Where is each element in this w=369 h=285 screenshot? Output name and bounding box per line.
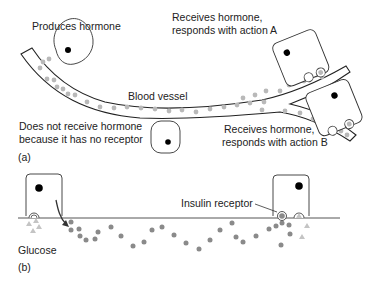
target-cell-with-insulin-receptor — [273, 175, 309, 221]
label-receives-a-line2: responds with action A — [172, 24, 277, 36]
non-target-cell — [151, 121, 180, 153]
endocrine-signaling-diagram: Produces hormone Receives hormone, respo… — [0, 0, 369, 285]
label-no-receptor-line2: because it has no receptor — [19, 133, 143, 145]
panel-b: Insulin receptor Glucose (b) — [18, 174, 340, 273]
insulin-secreting-cell — [26, 174, 69, 227]
label-no-receptor-line1: Does not receive hormone — [19, 120, 142, 132]
label-receives-b-line1: Receives hormone, — [224, 123, 314, 135]
glucose-molecules-right — [299, 223, 310, 239]
label-receives-b-line2: responds with action B — [222, 136, 328, 148]
panel-a: Produces hormone Receives hormone, respo… — [18, 11, 365, 163]
label-receives-a-line1: Receives hormone, — [172, 11, 262, 23]
label-blood-vessel: Blood vessel — [128, 90, 188, 102]
label-glucose: Glucose — [18, 244, 57, 256]
glucose-molecules-left — [26, 218, 42, 233]
label-insulin-receptor: Insulin receptor — [181, 197, 253, 209]
panel-label-b: (b) — [18, 261, 31, 273]
insulin-molecules — [69, 220, 293, 252]
label-produces-hormone: Produces hormone — [32, 20, 121, 32]
panel-label-a: (a) — [18, 151, 31, 163]
nucleus — [65, 47, 71, 53]
